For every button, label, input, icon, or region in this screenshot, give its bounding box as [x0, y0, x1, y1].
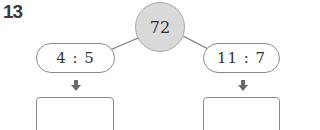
- ratio-label-right: 11 : 7: [217, 49, 266, 67]
- answer-box-left[interactable]: [36, 97, 114, 130]
- down-arrow-icon: [71, 80, 81, 92]
- ratio-pill-left: 4 : 5: [36, 43, 115, 73]
- down-arrow-icon: [238, 80, 248, 92]
- total-circle: 72: [135, 2, 185, 52]
- answer-box-right[interactable]: [203, 97, 280, 130]
- total-value: 72: [150, 18, 170, 37]
- ratio-pill-right: 11 : 7: [203, 43, 280, 73]
- ratio-label-left: 4 : 5: [56, 49, 95, 67]
